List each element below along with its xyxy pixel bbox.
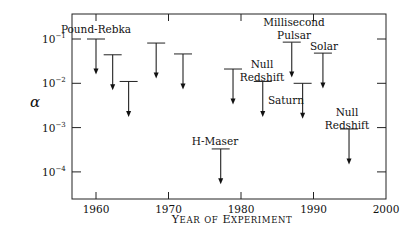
- experiment-label: NullRedshift: [240, 58, 285, 83]
- y-tick-label: 10−4: [42, 165, 66, 178]
- y-tick-label: 10−3: [42, 121, 66, 134]
- upper-limit-marker: [314, 53, 332, 88]
- arrow-down-icon: [126, 111, 131, 117]
- experiment-label: Solar: [310, 40, 339, 52]
- arrow-down-icon: [347, 158, 352, 164]
- experiment-label: Pound-Rebka: [61, 23, 131, 35]
- upper-limit-marker: [87, 39, 105, 74]
- experiment-annotations: Pound-RebkaH-MaserNullRedshiftMillisecon…: [61, 16, 370, 147]
- experiment-label: Saturn: [268, 94, 304, 106]
- experiment-label: MillisecondPulsar: [263, 16, 325, 41]
- y-axis-label: α: [30, 93, 40, 111]
- experiment-label: H-Maser: [192, 135, 239, 147]
- upper-limit-marker: [212, 149, 230, 184]
- arrow-down-icon: [94, 68, 99, 74]
- x-axis-label: YEAR OF EXPERIMENT: [171, 213, 293, 226]
- arrow-down-icon: [110, 84, 115, 90]
- arrow-down-icon: [231, 98, 236, 104]
- upper-limit-marker: [340, 129, 358, 164]
- upper-limit-marker: [174, 54, 192, 89]
- arrow-down-icon: [320, 83, 325, 89]
- x-tick-label: 1980: [228, 203, 255, 215]
- y-axis-ticks: 10−110−210−310−4: [42, 32, 386, 178]
- arrow-down-icon: [218, 178, 223, 184]
- alpha-vs-year-chart: 19601970198019902000 10−110−210−310−4 Po…: [0, 0, 411, 237]
- upper-limit-marker: [104, 55, 122, 90]
- x-tick-label: 1990: [300, 203, 327, 215]
- upper-limit-marker: [120, 81, 138, 116]
- arrow-down-icon: [154, 72, 159, 78]
- upper-limit-marker: [283, 42, 301, 77]
- arrow-down-icon: [289, 72, 294, 78]
- experiment-label: NullRedshift: [325, 106, 370, 131]
- arrow-down-icon: [181, 83, 186, 89]
- x-tick-label: 1960: [83, 203, 110, 215]
- y-tick-label: 10−2: [42, 76, 66, 89]
- upper-limit-marker: [147, 43, 165, 78]
- upper-limit-markers: [87, 39, 358, 184]
- x-tick-label: 2000: [373, 203, 400, 215]
- arrow-down-icon: [300, 113, 305, 119]
- arrow-down-icon: [260, 111, 265, 117]
